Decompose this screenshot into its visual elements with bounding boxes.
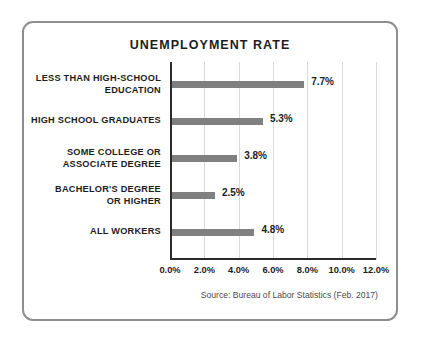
x-axis-line — [170, 258, 376, 260]
category-label: HIGH SCHOOL GRADUATES — [11, 115, 161, 127]
bar-value-label: 3.8% — [244, 150, 267, 161]
x-tick-label: 6.0% — [262, 265, 283, 275]
x-tick-label: 12.0% — [363, 265, 389, 275]
bar — [172, 155, 237, 162]
x-tick-label: 8.0% — [297, 265, 318, 275]
category-label: BACHELOR'S DEGREEOR HIGHER — [11, 184, 161, 207]
bar-value-label: 2.5% — [222, 187, 245, 198]
bar-value-label: 4.8% — [261, 224, 284, 235]
category-label: SOME COLLEGE ORASSOCIATE DEGREE — [11, 147, 161, 170]
gridline — [376, 62, 377, 260]
x-tick-label: 10.0% — [328, 265, 354, 275]
gridline — [342, 62, 343, 260]
page-title: UNEMPLOYMENT RATE — [24, 38, 396, 52]
plot-area: LESS THAN HIGH-SCHOOLEDUCATION7.7%HIGH S… — [170, 62, 376, 260]
x-tick-label: 2.0% — [194, 265, 215, 275]
x-tick-label: 4.0% — [228, 265, 249, 275]
bar — [172, 81, 304, 88]
bar-value-label: 7.7% — [311, 76, 334, 87]
chart-card: UNEMPLOYMENT RATE LESS THAN HIGH-SCHOOLE… — [22, 21, 398, 321]
bar — [172, 192, 215, 199]
bar — [172, 118, 263, 125]
gridline — [307, 62, 308, 260]
category-label: LESS THAN HIGH-SCHOOLEDUCATION — [11, 73, 161, 96]
x-axis-tick-labels: 0.0%2.0%4.0%6.0%8.0%10.0%12.0% — [170, 265, 376, 279]
x-tick-label: 0.0% — [159, 265, 180, 275]
category-label: ALL WORKERS — [11, 226, 161, 238]
source-note: Source: Bureau of Labor Statistics (Feb.… — [201, 290, 378, 300]
bar-value-label: 5.3% — [270, 113, 293, 124]
bar — [172, 229, 254, 236]
